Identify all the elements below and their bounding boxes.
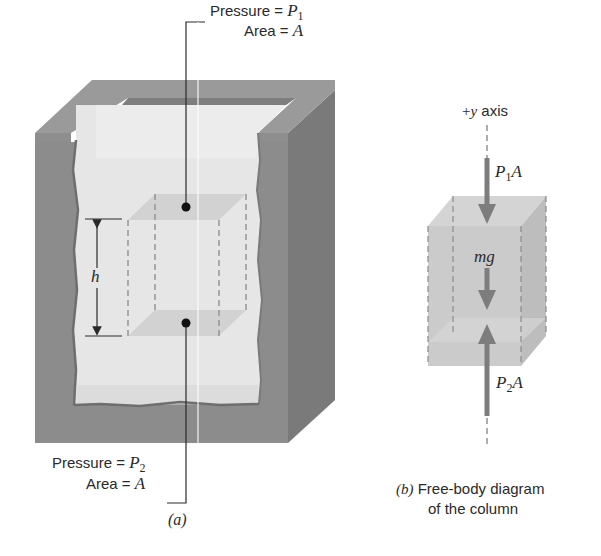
force-weight-label: mg [474,248,495,266]
y-axis-label: +y axis [462,102,508,120]
caption-b-line2: of the column [428,500,518,518]
bottom-area-label: Area = A [86,475,145,493]
tank-rim-right-front [258,133,288,142]
force-p1a-label: P1A [495,163,522,186]
height-label: h [91,268,100,286]
fluid-floor [74,385,259,405]
bottom-pressure-point [182,319,191,328]
top-area-label: Area = A [244,22,303,40]
caption-a: (a) [168,511,187,529]
bottom-pressure-label: Pressure = P2 [52,454,146,477]
tank-rim-inner-back [122,98,296,105]
force-p2a-arrow-shaft [485,342,490,416]
tank [35,80,335,443]
fluid-back-shade [96,105,286,158]
hydrostatic-column-figure: Pressure = P1 Area = A h Pressure = P2 A… [0,0,601,556]
force-p1a-arrow-shaft [485,158,490,208]
force-p2a-label: P2A [496,374,523,397]
top-pressure-point [182,203,191,212]
tank-rim-left-front [35,133,71,142]
free-body-diagram [428,125,546,448]
tank-side-face [288,90,335,443]
caption-b-line1: (b) Free-body diagram [396,480,544,498]
